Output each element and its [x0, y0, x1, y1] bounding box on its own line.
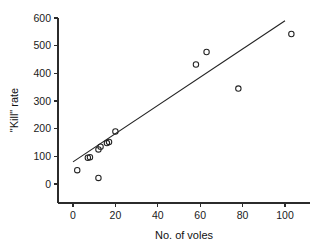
- y-tick-label: 100: [33, 150, 51, 162]
- x-tick-label: 0: [70, 209, 76, 221]
- data-point: [96, 175, 101, 180]
- x-tick-label: 100: [276, 209, 294, 221]
- x-axis-title: No. of voles: [155, 229, 214, 241]
- data-point: [289, 31, 294, 36]
- x-tick-label: 60: [194, 209, 206, 221]
- tick-labels-group: 0100200300400500600020406080100: [33, 12, 293, 221]
- x-tick-label: 20: [110, 209, 122, 221]
- x-tick-label: 80: [237, 209, 249, 221]
- ticks-group: [54, 18, 285, 207]
- data-point: [75, 167, 80, 172]
- scatter-plot-figure: 0100200300400500600020406080100 No. of v…: [0, 0, 316, 244]
- data-points-group: [75, 31, 295, 180]
- y-tick-label: 300: [33, 95, 51, 107]
- y-tick-label: 600: [33, 12, 51, 24]
- y-tick-label: 0: [45, 178, 51, 190]
- data-point: [193, 62, 198, 67]
- axes-group: [58, 18, 310, 203]
- y-tick-label: 400: [33, 67, 51, 79]
- y-tick-label: 500: [33, 39, 51, 51]
- plot-canvas: 0100200300400500600020406080100 No. of v…: [0, 0, 316, 244]
- data-point: [236, 86, 241, 91]
- y-tick-label: 200: [33, 122, 51, 134]
- y-axis-title: "Kill" rate: [8, 88, 20, 133]
- x-tick-label: 40: [152, 209, 164, 221]
- data-point: [204, 49, 209, 54]
